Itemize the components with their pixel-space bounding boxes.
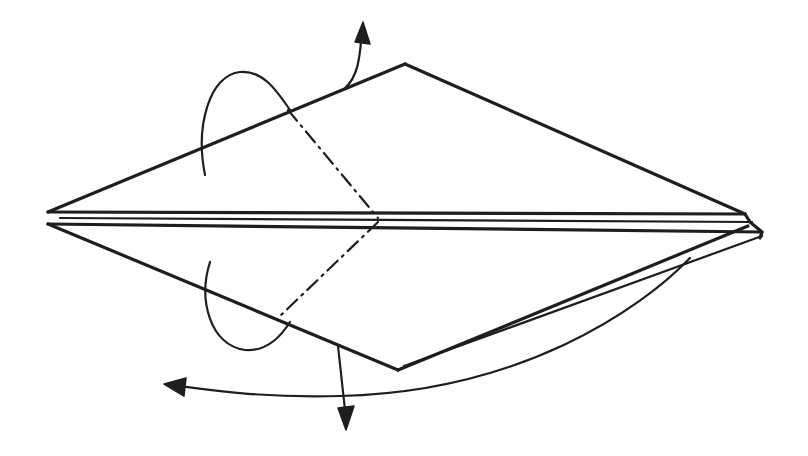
- lower-flip-arrow-icon: [338, 346, 345, 410]
- model-outline: [48, 64, 762, 370]
- upper-left-edge: [48, 64, 405, 212]
- upper-right-edge: [405, 64, 745, 214]
- center-layer-3: [48, 224, 762, 232]
- turn-over-arrow-icon: [180, 258, 690, 396]
- lower-mountain-fold-line: [278, 222, 378, 318]
- origami-diagram: [0, 0, 808, 456]
- upper-mountain-fold-line: [288, 110, 378, 218]
- turn-over-arrowhead-icon: [164, 378, 186, 396]
- lower-left-edge: [48, 224, 398, 370]
- lower-flip-arrowhead-icon: [338, 406, 354, 430]
- lower-right-edge-back: [404, 236, 762, 366]
- upper-fold-behind-arrow-icon: [202, 72, 290, 175]
- center-layer-1: [48, 212, 745, 214]
- center-layer-2: [60, 218, 752, 222]
- upper-flip-arrowhead-icon: [355, 22, 370, 44]
